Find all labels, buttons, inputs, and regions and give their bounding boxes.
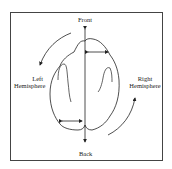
label-left-hemisphere: Left Hemisphere bbox=[14, 75, 43, 89]
right-rotation-arrow bbox=[108, 98, 135, 135]
label-left-line2: Hemisphere bbox=[14, 82, 43, 89]
left-rotation-arrow bbox=[40, 33, 71, 65]
left-fold bbox=[58, 64, 71, 102]
label-back: Back bbox=[79, 150, 92, 157]
label-right-hemisphere: Right Hemisphere bbox=[128, 75, 162, 89]
label-front: Front bbox=[78, 16, 92, 23]
label-right-line1: Right bbox=[128, 75, 162, 82]
label-right-line2: Hemisphere bbox=[128, 82, 162, 89]
brain-outline bbox=[50, 39, 119, 130]
right-fold bbox=[98, 68, 112, 92]
label-left-line1: Left bbox=[14, 75, 43, 82]
